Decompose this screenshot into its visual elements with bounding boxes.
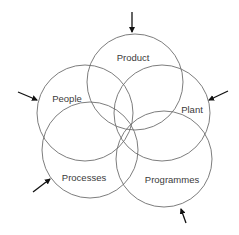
arrows-group bbox=[18, 12, 228, 223]
label-plant: Plant bbox=[181, 104, 203, 115]
five-p-overlapping-circles-diagram: ProductPeoplePlantProcessesProgrammes bbox=[0, 0, 239, 235]
circle-programmes bbox=[116, 111, 212, 207]
labels-group: ProductPeoplePlantProcessesProgrammes bbox=[52, 52, 203, 185]
arrow-left-icon bbox=[18, 92, 37, 100]
label-processes: Processes bbox=[62, 172, 107, 183]
arrow-bottom-right-icon bbox=[181, 209, 186, 223]
arrow-right-icon bbox=[209, 91, 228, 100]
circle-people bbox=[37, 65, 133, 161]
label-programmes: Programmes bbox=[145, 174, 200, 185]
circle-processes bbox=[42, 102, 138, 198]
label-product: Product bbox=[117, 52, 150, 63]
circle-product bbox=[87, 34, 183, 130]
arrow-bottom-left-icon bbox=[33, 179, 50, 192]
label-people: People bbox=[52, 93, 82, 104]
